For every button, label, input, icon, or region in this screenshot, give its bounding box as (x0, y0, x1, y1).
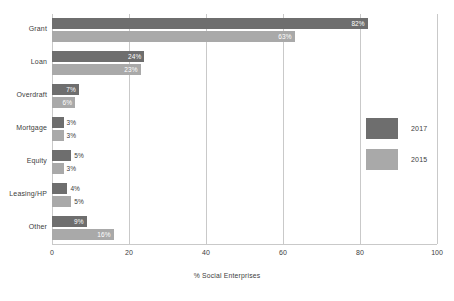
category-group-other: 9%16% (52, 211, 437, 244)
gridline-100 (437, 14, 438, 244)
bar-value-label: 3% (64, 130, 77, 141)
bar-2017-mortgage[interactable] (52, 117, 64, 128)
bar-value-label: 24% (128, 51, 144, 62)
category-label-overdraft: Overdraft (16, 91, 47, 98)
category-label-leasing-hp: Leasing/HP (9, 190, 47, 197)
legend-entry-2015[interactable]: 2015 (366, 149, 427, 170)
legend-swatch-icon-2017 (366, 118, 398, 139)
bar-value-label: 4% (67, 183, 80, 194)
bar-slot: 4% (52, 183, 437, 194)
bar-2015-grant[interactable] (52, 31, 295, 42)
bar-2015-mortgage[interactable] (52, 130, 64, 141)
x-tick-label-0: 0 (50, 249, 54, 256)
x-tick-label-60: 60 (279, 249, 287, 256)
category-group-grant: 82%63% (52, 14, 437, 47)
bar-2015-equity[interactable] (52, 163, 64, 174)
x-tick-label-100: 100 (431, 249, 443, 256)
bar-2017-grant[interactable] (52, 18, 368, 29)
x-tick-label-40: 40 (202, 249, 210, 256)
category-label-equity: Equity (27, 157, 47, 164)
bar-slot: 7% (52, 84, 437, 95)
category-label-other: Other (29, 223, 47, 230)
category-group-loan: 24%23% (52, 47, 437, 80)
x-tick-label-20: 20 (125, 249, 133, 256)
bar-slot: 24% (52, 51, 437, 62)
bar-value-label: 3% (64, 163, 77, 174)
bar-slot: 82% (52, 18, 437, 29)
category-label-grant: Grant (29, 25, 47, 32)
bar-2017-equity[interactable] (52, 150, 71, 161)
bar-value-label: 63% (278, 31, 294, 42)
x-axis-title: % Social Enterprises (0, 272, 454, 279)
bar-slot: 23% (52, 64, 437, 75)
bar-2017-leasing-hp[interactable] (52, 183, 67, 194)
bar-chart: 82%63%24%23%7%6%3%3%5%3%4%5%9%16% 020406… (0, 0, 454, 301)
category-group-overdraft: 7%6% (52, 80, 437, 113)
bar-value-label: 6% (62, 97, 75, 108)
bar-value-label: 5% (71, 150, 84, 161)
legend-label-2015: 2015 (411, 156, 427, 163)
bar-value-label: 3% (64, 117, 77, 128)
bar-slot: 5% (52, 196, 437, 207)
bar-value-label: 23% (124, 64, 140, 75)
bar-value-label: 5% (71, 196, 84, 207)
category-label-loan: Loan (31, 58, 47, 65)
x-axis-line (52, 244, 437, 245)
bar-slot: 9% (52, 216, 437, 227)
bar-slot: 63% (52, 31, 437, 42)
x-tick-label-80: 80 (356, 249, 364, 256)
bar-2015-leasing-hp[interactable] (52, 196, 71, 207)
bar-value-label: 9% (74, 216, 87, 227)
chart-legend: 2017 2015 (366, 118, 427, 180)
legend-swatch-icon-2015 (366, 149, 398, 170)
legend-label-2017: 2017 (411, 125, 427, 132)
bar-value-label: 82% (351, 18, 367, 29)
bar-slot: 6% (52, 97, 437, 108)
bar-value-label: 16% (97, 229, 113, 240)
bar-value-label: 7% (66, 84, 79, 95)
category-label-mortgage: Mortgage (16, 124, 47, 131)
category-group-leasing-hp: 4%5% (52, 178, 437, 211)
legend-entry-2017[interactable]: 2017 (366, 118, 427, 139)
bar-slot: 16% (52, 229, 437, 240)
